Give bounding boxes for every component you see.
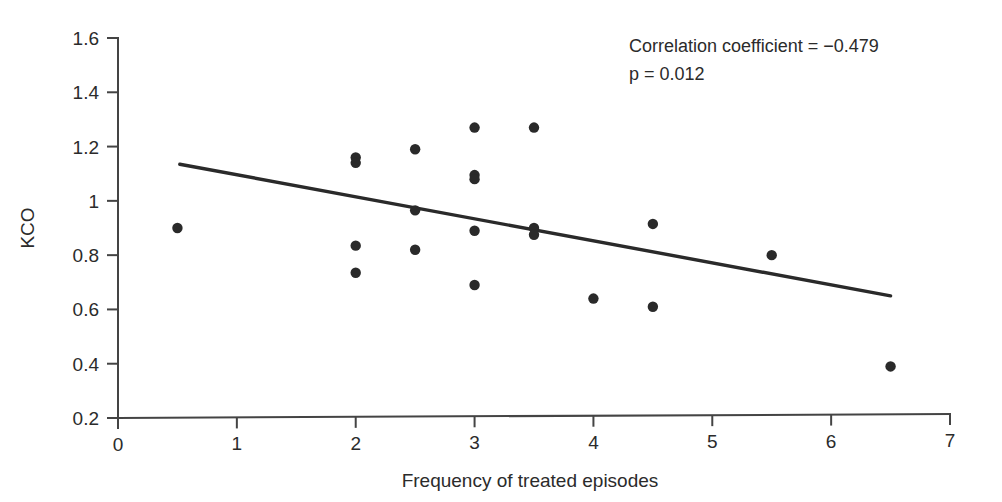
data-point [351,240,361,250]
data-point [529,230,539,240]
data-point [351,268,361,278]
y-axis-ticks: 0.20.40.60.811.21.41.6 [73,28,118,429]
data-point [885,361,895,371]
y-tick-label: 1 [88,191,99,212]
x-axis-label: Frequency of treated episodes [402,470,659,491]
data-points [172,122,896,371]
data-point [410,245,420,255]
x-axis-ticks: 01234567 [113,414,956,455]
y-axis-label: KCO [17,207,38,248]
scatter-plot-figure: 01234567 0.20.40.60.811.21.41.6 Frequenc… [0,0,1002,502]
data-point [469,280,479,290]
y-tick-label: 0.4 [73,354,100,375]
y-tick-label: 1.2 [73,137,99,158]
data-point [410,205,420,215]
y-tick-label: 0.6 [73,299,99,320]
plot-canvas: 01234567 0.20.40.60.811.21.41.6 Frequenc… [0,0,1002,502]
data-point [469,226,479,236]
x-tick-label: 7 [945,430,956,451]
y-tick-label: 0.2 [73,408,99,429]
x-tick-label: 3 [469,432,480,453]
x-tick-label: 6 [826,431,837,452]
correlation-annotation: Correlation coefficient = −0.479 [629,36,879,56]
data-point [469,122,479,132]
x-axis-line [118,414,950,418]
data-point [172,223,182,233]
x-tick-label: 4 [588,432,599,453]
x-tick-label: 1 [232,433,243,454]
data-point [529,122,539,132]
data-point [648,302,658,312]
data-point [410,144,420,154]
data-point [469,174,479,184]
y-tick-label: 1.4 [73,82,100,103]
x-tick-label: 5 [707,431,718,452]
data-point [767,250,777,260]
y-tick-label: 1.6 [73,28,99,49]
pvalue-annotation: p = 0.012 [629,64,705,84]
x-tick-label: 0 [113,434,124,455]
data-point [351,158,361,168]
y-tick-label: 0.8 [73,245,99,266]
x-tick-label: 2 [350,433,361,454]
data-point [588,293,598,303]
data-point [648,219,658,229]
